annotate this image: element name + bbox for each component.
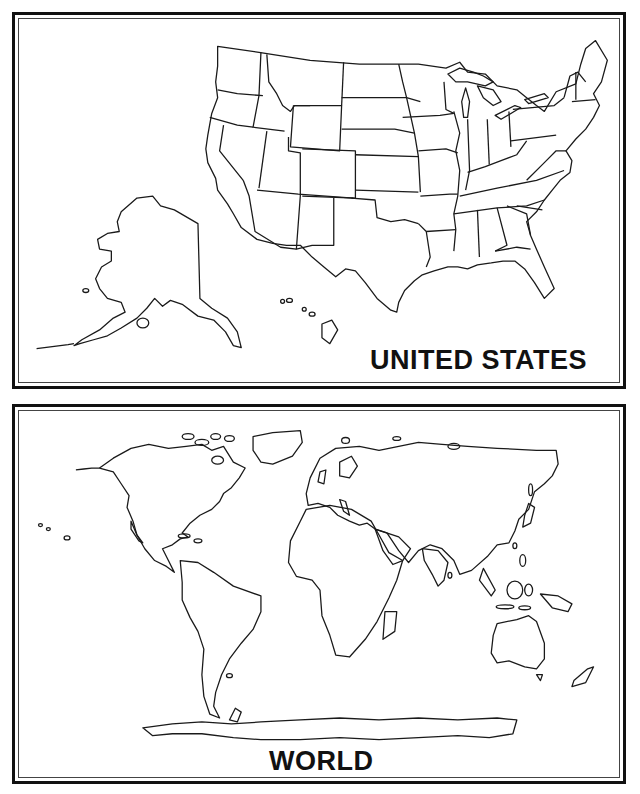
hawaii-island-2 <box>287 298 293 302</box>
lake-michigan <box>462 88 470 118</box>
arctic-island-3 <box>211 434 221 440</box>
arctic-russia-1 <box>342 438 350 444</box>
new-guinea <box>540 594 571 612</box>
nd-mn-border <box>399 64 421 192</box>
sd-ne-border <box>342 129 415 133</box>
ar-la-border <box>426 230 456 232</box>
hawaii-island-1 <box>281 299 285 303</box>
oh-pa-border <box>509 111 511 146</box>
or-ca-border <box>210 117 253 127</box>
tx-la-border <box>418 224 430 267</box>
mo-ar-border <box>420 194 457 196</box>
java <box>496 605 514 609</box>
hawaii-world-3 <box>64 536 70 540</box>
tasmania <box>537 675 543 681</box>
mt-nd-border <box>342 62 344 105</box>
arctic-island-4 <box>225 436 235 442</box>
madagascar <box>383 612 397 640</box>
philippines <box>520 555 526 567</box>
arctic-russia-2 <box>393 437 401 441</box>
ky-north-border <box>468 141 527 172</box>
malay-peninsula <box>479 568 495 596</box>
wa-or-border <box>218 90 263 96</box>
north-america-outline <box>100 444 246 572</box>
africa-outline <box>288 505 402 657</box>
hawaii-world-1 <box>39 524 43 527</box>
in-oh-border <box>487 119 489 164</box>
ky-tn-border <box>460 170 564 196</box>
hawaii-island-3 <box>302 307 306 311</box>
scandinavia <box>340 456 358 478</box>
nm-border <box>296 196 333 249</box>
cuba <box>178 534 190 538</box>
nv-ut-border <box>259 131 267 188</box>
australia-outline <box>491 616 544 669</box>
ok-tx-border <box>351 198 418 224</box>
il-in-border <box>466 119 470 190</box>
nv-border <box>220 125 244 180</box>
sakhalin <box>529 484 533 496</box>
aleutian-islands <box>37 344 74 349</box>
hawaii-world-2 <box>46 528 50 531</box>
baja-california <box>131 521 143 543</box>
south-america-outline <box>180 561 261 718</box>
lesser-sunda <box>519 606 531 610</box>
world-map-panel: WORLD <box>12 404 626 784</box>
lake-superior <box>448 68 493 86</box>
indian-subcontinent <box>422 549 448 586</box>
world-map-title: WORLD <box>269 746 373 777</box>
hispaniola <box>194 539 202 543</box>
us-map-panel: UNITED STATES <box>12 12 626 389</box>
wy-border <box>290 106 341 151</box>
us-map <box>15 15 623 386</box>
az-nm-border <box>257 190 353 198</box>
ia-mo-border <box>418 149 457 153</box>
arctic-russia-3 <box>448 443 460 449</box>
pa-south-border <box>511 135 556 141</box>
ms-al-border <box>477 210 479 257</box>
nd-sd-border <box>342 98 421 102</box>
lake-ontario <box>525 94 549 104</box>
lake-erie <box>495 106 521 120</box>
az-border <box>243 180 296 249</box>
new-zealand <box>572 667 594 687</box>
greenland <box>253 431 302 464</box>
ma-ct-border <box>572 100 596 102</box>
va-border <box>527 151 566 181</box>
borneo <box>507 581 523 599</box>
sri-lanka <box>448 572 452 578</box>
ne-ks-border <box>355 155 418 157</box>
hawaii-island-4 <box>309 312 315 316</box>
kodiak-island <box>137 318 149 328</box>
lake-huron <box>477 86 501 106</box>
ks-ok-border <box>355 190 418 192</box>
tn-south-border <box>454 200 545 214</box>
alaska-island-1 <box>83 289 89 293</box>
antarctica-outline <box>143 718 517 740</box>
taiwan <box>513 543 517 549</box>
japan <box>523 503 535 527</box>
al-ga-border <box>495 208 507 251</box>
hawaii-big-island <box>322 320 338 344</box>
us-map-title: UNITED STATES <box>370 345 587 376</box>
world-map <box>15 407 623 781</box>
co-border <box>302 149 355 198</box>
falkland-islands <box>226 674 232 678</box>
sulawesi <box>525 584 533 596</box>
id-border <box>253 52 284 131</box>
alaska-peninsula <box>76 468 100 470</box>
baffin-island <box>212 456 224 464</box>
arctic-island-1 <box>182 434 194 440</box>
british-isles <box>318 470 326 484</box>
id-mt-border <box>267 54 310 111</box>
wi-border <box>444 82 454 113</box>
alaska-outline <box>74 196 241 348</box>
antarctic-peninsula <box>229 708 241 722</box>
